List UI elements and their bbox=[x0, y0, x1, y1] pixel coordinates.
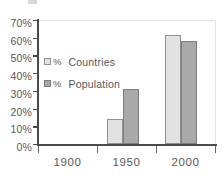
legend-swatch-icon-countries bbox=[44, 58, 51, 65]
legend-percent-symbol: % bbox=[53, 78, 61, 89]
x-axis-labels: 1900 1950 2000 bbox=[38, 156, 217, 174]
y-tick-label: 60% bbox=[0, 36, 32, 46]
bar-population-2000 bbox=[181, 41, 197, 144]
legend-label-countries: Countries bbox=[68, 56, 115, 68]
x-tick-label-2000: 2000 bbox=[156, 156, 215, 168]
y-axis-labels: 70% 60% 50% 40% 30% 20% 10% 0% bbox=[0, 18, 36, 146]
x-axis-tick bbox=[38, 146, 39, 153]
y-tick-label: 10% bbox=[0, 124, 32, 134]
legend-item-countries: % Countries bbox=[44, 54, 140, 69]
legend: % Countries % Population bbox=[44, 54, 140, 98]
bar-chart: 70% 60% 50% 40% 30% 20% 10% 0% bbox=[0, 0, 223, 182]
bar-countries-1950 bbox=[107, 119, 123, 144]
bar-countries-2000 bbox=[165, 35, 181, 144]
x-tick-label-1950: 1950 bbox=[97, 156, 156, 168]
x-axis-tick bbox=[97, 146, 98, 153]
y-tick-label: 70% bbox=[0, 18, 32, 28]
x-tick-label-1900: 1900 bbox=[38, 156, 97, 168]
bar-group-2000 bbox=[156, 20, 214, 144]
legend-label-population: Population bbox=[68, 78, 120, 90]
x-axis-tick bbox=[156, 146, 157, 153]
y-tick-label: 20% bbox=[0, 107, 32, 117]
clipped-artifact bbox=[28, 0, 37, 4]
legend-percent-symbol: % bbox=[53, 56, 61, 67]
y-tick-label: 30% bbox=[0, 89, 32, 99]
x-axis-category-ticks bbox=[38, 146, 217, 153]
y-tick-label: 50% bbox=[0, 53, 32, 63]
legend-swatch-icon-population bbox=[44, 80, 51, 87]
legend-item-population: % Population bbox=[44, 76, 140, 91]
y-tick-label: 40% bbox=[0, 71, 32, 81]
y-tick-label: 0% bbox=[0, 142, 32, 152]
x-axis-tick bbox=[215, 146, 216, 153]
